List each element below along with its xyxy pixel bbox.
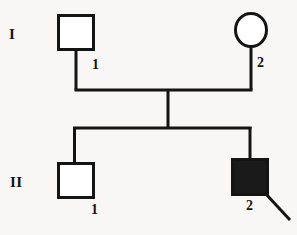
individual-label-II-2: 2: [246, 199, 253, 213]
individual-I-2-circle[interactable]: [236, 14, 267, 47]
individual-I-1-square[interactable]: [59, 16, 94, 50]
proband-arrow-line: [265, 193, 290, 220]
generation-numeral-II: II: [10, 175, 23, 190]
individual-label-I-1: 1: [92, 58, 99, 72]
generation-numeral-I: I: [9, 27, 15, 42]
individual-label-II-1: 1: [91, 203, 98, 217]
individual-II-1-square[interactable]: [59, 164, 94, 198]
individual-label-I-2: 2: [257, 56, 264, 70]
pedigree-diagram: I II 1 2 1 2: [0, 0, 297, 235]
individual-II-2-square-affected[interactable]: [233, 160, 268, 195]
